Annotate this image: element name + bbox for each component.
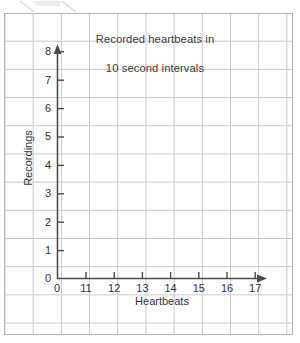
y-tick-label-5: 5 [35,130,51,142]
y-tick-label-2: 2 [35,216,51,228]
x-tick-label-15: 15 [188,282,210,294]
y-axis-title: Recordings [22,113,34,203]
x-tick-label-13: 13 [131,282,153,294]
x-tick-label-11: 11 [75,282,97,294]
chart-title-line-1: Recorded heartbeats in [50,32,260,47]
y-tick-label-3: 3 [35,187,51,199]
x-tick-label-0: 0 [46,282,68,294]
x-axis-title: Heartbeats [97,295,227,307]
y-tick-label-6: 6 [35,102,51,114]
y-tick-label-1: 1 [35,244,51,256]
worksheet-graph-page: Recorded heartbeats in 10 second interva… [0,0,300,343]
chart-title: Recorded heartbeats in 10 second interva… [50,17,260,90]
y-tick-label-7: 7 [35,74,51,86]
chart-title-line-2: 10 second intervals [50,61,260,76]
x-tick-label-12: 12 [103,282,125,294]
x-tick-label-16: 16 [216,282,238,294]
y-tick-label-8: 8 [35,45,51,57]
x-tick-label-14: 14 [160,282,182,294]
x-tick-label-17: 17 [244,282,266,294]
y-tick-label-4: 4 [35,159,51,171]
